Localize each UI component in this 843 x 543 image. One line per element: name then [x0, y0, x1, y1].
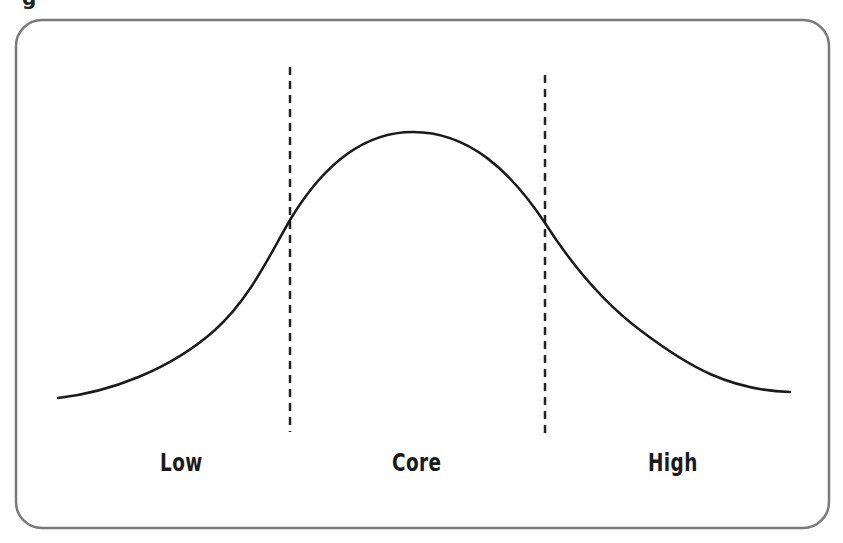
- region-label-low: Low: [160, 448, 203, 477]
- region-label-high: High: [648, 448, 698, 477]
- bell-curve: [58, 132, 790, 398]
- region-label-core: Core: [392, 448, 441, 477]
